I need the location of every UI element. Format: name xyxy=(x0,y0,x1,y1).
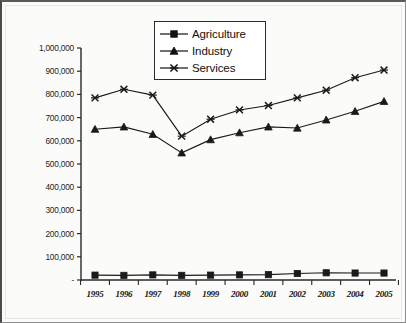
y-axis-tick-label: 300,000 xyxy=(2,205,74,215)
x-axis-tick-label: 1999 xyxy=(202,289,219,299)
data-point-marker xyxy=(294,270,300,276)
series-industry xyxy=(91,98,388,156)
data-point-marker xyxy=(293,94,301,101)
data-point-marker xyxy=(178,133,186,140)
legend-item-services: Services xyxy=(159,59,261,76)
chart-legend: AgricultureIndustryServices xyxy=(154,21,266,80)
data-point-marker xyxy=(352,270,358,276)
cross-marker-icon xyxy=(159,61,189,75)
x-axis-tick-label: 1996 xyxy=(115,289,132,299)
y-axis-tick-label: 400,000 xyxy=(2,182,74,192)
data-point-marker xyxy=(91,94,99,101)
chart-series-layer xyxy=(91,67,388,279)
data-point-marker xyxy=(236,272,242,278)
square-marker-icon xyxy=(159,27,189,41)
legend-item-label: Agriculture xyxy=(192,28,246,40)
data-point-marker xyxy=(179,272,185,278)
y-axis-tick-label: 500,000 xyxy=(2,159,74,169)
data-point-marker xyxy=(121,272,127,278)
x-axis-tick-label: 2001 xyxy=(260,289,277,299)
y-axis-tick-label: 800,000 xyxy=(2,89,74,99)
y-axis-tick-label: 900,000 xyxy=(2,66,74,76)
data-point-marker xyxy=(236,107,244,114)
data-point-marker xyxy=(265,272,271,278)
data-point-marker xyxy=(351,74,359,81)
legend-item-industry: Industry xyxy=(159,42,261,59)
data-point-marker xyxy=(92,272,98,278)
y-axis-tick-label: 1,000,000 xyxy=(2,43,74,53)
data-point-marker xyxy=(381,270,387,276)
legend-item-label: Services xyxy=(192,62,235,74)
x-axis-tick-label: 2000 xyxy=(231,289,248,299)
data-point-marker xyxy=(264,102,272,109)
y-axis-tick-label: 600,000 xyxy=(2,136,74,146)
y-axis-tick-label: 700,000 xyxy=(2,113,74,123)
data-point-marker xyxy=(323,270,329,276)
x-axis-tick-label: 1997 xyxy=(144,289,161,299)
x-axis-tick-label: 2005 xyxy=(376,289,393,299)
data-point-marker xyxy=(380,67,388,74)
data-point-marker xyxy=(170,64,178,71)
data-point-marker xyxy=(149,92,157,99)
y-axis-tick-label: - xyxy=(2,275,74,285)
x-axis-tick-label: 1995 xyxy=(87,289,104,299)
x-axis-tick-label: 2002 xyxy=(289,289,306,299)
y-axis-tick-label: 200,000 xyxy=(2,229,74,239)
data-point-marker xyxy=(150,272,156,278)
chart-axes xyxy=(77,48,398,285)
legend-item-label: Industry xyxy=(192,45,232,57)
triangle-marker-icon xyxy=(159,44,189,58)
legend-item-agriculture: Agriculture xyxy=(159,25,261,42)
data-point-marker xyxy=(380,98,388,105)
x-axis-tick-label: 1998 xyxy=(173,289,190,299)
data-point-marker xyxy=(171,30,178,37)
chart-figure: -100,000200,000300,000400,000500,000600,… xyxy=(0,0,406,323)
x-axis-tick-label: 2003 xyxy=(318,289,335,299)
data-point-marker xyxy=(178,149,186,156)
y-axis-tick-label: 100,000 xyxy=(2,252,74,262)
data-point-marker xyxy=(208,272,214,278)
data-point-marker xyxy=(322,87,330,94)
series-agriculture xyxy=(92,270,387,279)
x-axis-tick-label: 2004 xyxy=(347,289,364,299)
data-point-marker xyxy=(120,86,128,93)
data-point-marker xyxy=(120,123,128,130)
data-point-marker xyxy=(207,116,215,123)
